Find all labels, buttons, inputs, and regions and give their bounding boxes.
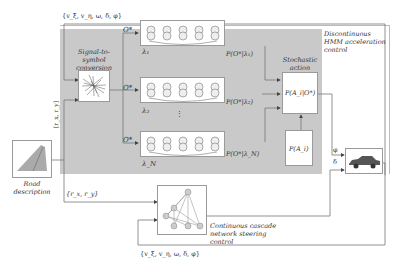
observation-label-2: O*: [123, 84, 132, 92]
road-coords-label: {r_x, r_y}: [66, 190, 98, 198]
hmm-model-1: [140, 20, 225, 46]
cascade-label: Continuous cascade network steering cont…: [210, 222, 290, 246]
lambda-n-label: λ_N: [142, 160, 156, 168]
hmm-region-title: Discontinuous HMM acceleration control: [324, 30, 390, 54]
observation-label-3: O*: [123, 136, 132, 144]
prior-block: P(A_i): [285, 130, 313, 166]
road-icon: [13, 141, 51, 177]
lambda-2-label: λ₂: [142, 107, 149, 115]
hmm-model-n: [140, 131, 225, 157]
hmm-model-2: [140, 77, 225, 103]
posterior-label: P(A_i|O*): [285, 89, 315, 97]
likelihood-n-label: P(O*|λ_N): [226, 150, 259, 158]
likelihood-1-label: P(O*|λ₁): [226, 50, 253, 58]
lambda-1-label: λ₁: [142, 48, 149, 56]
vehicle-block: [345, 148, 383, 174]
phi-label: φ: [333, 146, 338, 154]
bottom-state-label: {v_ξ, v_η, ω, δ, φ}: [140, 250, 200, 258]
top-state-label: {v_ξ, v_η, ω, δ, φ}: [62, 12, 122, 20]
signal-to-symbol-block: [78, 70, 110, 102]
car-icon: [346, 149, 382, 173]
posterior-block: P(A_i|O*): [282, 72, 318, 114]
scribble-icon: [79, 71, 109, 101]
cascade-network-block: [157, 185, 207, 235]
signal-block-title: Signal-to-symbol conversion: [76, 48, 112, 72]
prior-label: P(A_i): [289, 145, 308, 153]
likelihood-2-label: P(O*|λ₂): [226, 98, 253, 106]
delta-label: δ: [333, 158, 337, 166]
road-label: Road description: [10, 180, 54, 196]
road-coords-vertical-label: [r_x, r_y]: [52, 101, 59, 128]
road-block: [12, 140, 52, 178]
observation-label-1: O*: [123, 26, 132, 34]
ellipsis-dots: ⋮: [176, 110, 183, 118]
network-icon: [158, 186, 206, 234]
